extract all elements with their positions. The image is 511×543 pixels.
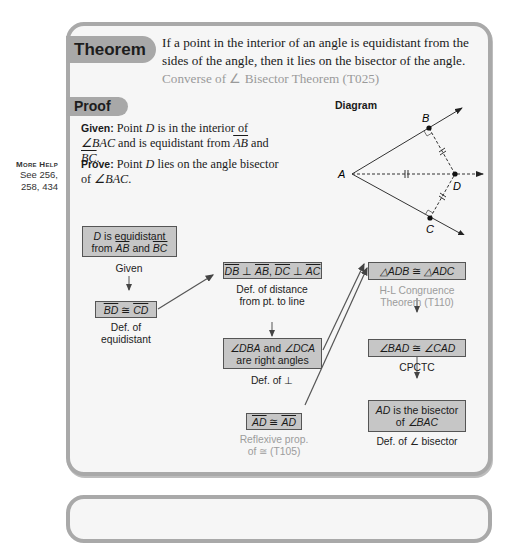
step-text: ∠DBA [230,342,261,354]
step-text: ∠BAC [408,416,439,428]
reason-text: Reflexive prop. [229,434,319,446]
step-text: ≅ [267,416,282,428]
step-text: and [129,242,152,254]
step-text: DB [225,265,240,277]
reason-text: Def. of distance [222,284,322,296]
step-6-box: △ADB ≅ △ADC [368,262,466,280]
step-text: ≅ [409,342,424,354]
step-text: ∠DCA [284,342,315,354]
step-text: △ADC [424,265,454,277]
step-text: ⊥ [239,265,255,277]
reason-text: of ≅ (T105) [229,446,319,458]
step-8-reason: Def. of ∠ bisector [362,436,472,448]
next-card [66,495,492,543]
step-7-box: ∠BAD ≅ ∠CAD [368,339,466,357]
step-text: ≅ [118,304,133,316]
step-3-reason: Def. of distance from pt. to line [222,284,322,308]
step-text: BC [153,242,168,254]
step-text: ∠CAD [424,342,455,354]
arrow-s4-s6 [323,264,364,350]
step-text: ⊥ [290,265,306,277]
step-text: ≅ [409,265,424,277]
step-text: BD [104,304,119,316]
step-3-box: DB ⊥ AB, DC ⊥ AC [223,262,322,279]
reason-text: Theorem (T110) [367,297,467,309]
reason-text: equidistant [86,334,166,346]
step-text: AC [306,265,321,277]
step-4-box: ∠DBA and ∠DCA are right angles [223,338,322,369]
step-text: AB [115,242,129,254]
step-text: DC [275,265,290,277]
step-8-box: AD is the bisector of ∠BAC [368,400,466,432]
reason-text: H-L Congruence [367,285,467,297]
reason-text: Def. of [86,322,166,334]
step-text: AD [281,416,296,428]
step-text: △ADB [380,265,410,277]
reason-text: from pt. to line [222,296,322,308]
step-5-reason: Reflexive prop. of ≅ (T105) [229,434,319,458]
step-text: AB [255,265,269,277]
step-2-box: BD ≅ CD [95,301,157,318]
step-6-reason: H-L Congruence Theorem (T110) [367,285,467,309]
step-1-box: D is equidistant from AB and BC [82,226,177,257]
step-text: is equidistant [101,230,165,242]
step-5-box: AD ≅ AD [246,413,302,430]
step-1-reason: Given [90,263,168,275]
step-text: CD [133,304,148,316]
step-text: AD [252,416,267,428]
step-text: of [396,416,408,428]
step-text: and [261,342,284,354]
step-7-reason: CPCTC [377,362,457,374]
step-4-reason: Def. of ⊥ [232,375,312,387]
step-text: are right angles [224,354,321,366]
step-text: AD [376,404,391,416]
arrow-s2-s3 [158,275,213,309]
step-2-reason: Def. of equidistant [86,322,166,346]
step-text: from [92,242,116,254]
step-text: ∠BAD [379,342,410,354]
step-text: is the bisector [390,404,458,416]
